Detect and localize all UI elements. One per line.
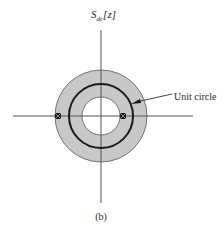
plot-title: Sdc[z] — [91, 8, 116, 23]
z-plane-diagram: Unit circle Sdc[z] (b) — [0, 0, 224, 236]
figure-caption: (b) — [95, 211, 107, 223]
pole-marker-right — [120, 113, 126, 119]
pole-marker-left — [55, 113, 61, 119]
unit-circle-label: Unit circle — [174, 91, 217, 102]
